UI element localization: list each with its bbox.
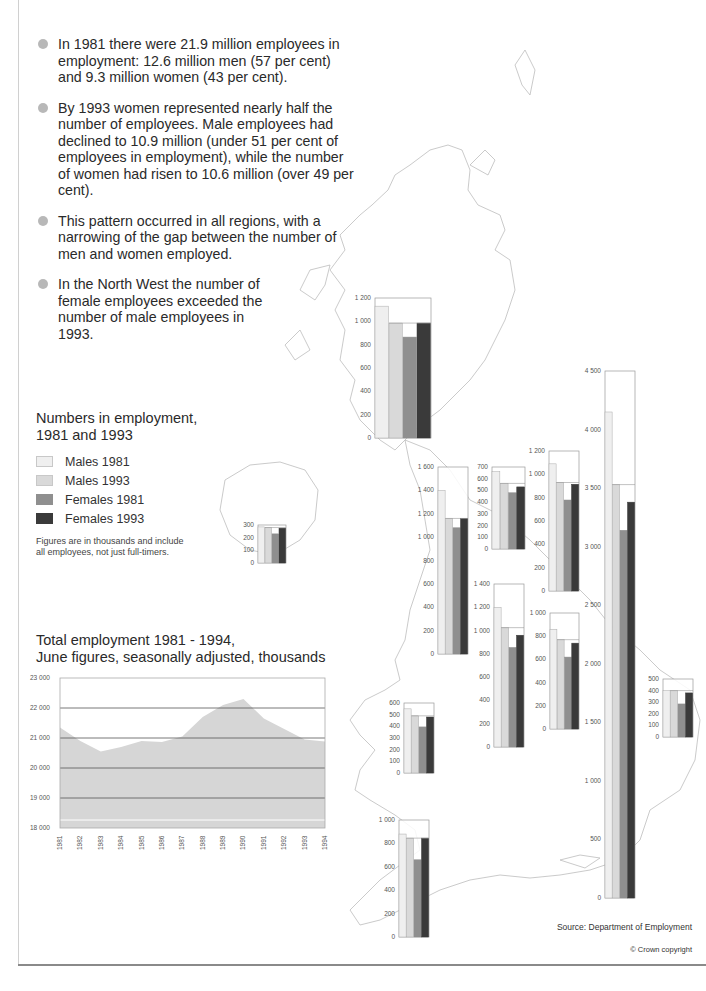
bar-females-1981 — [678, 704, 685, 737]
bar-males-1993 — [557, 640, 564, 729]
y-tick-label: 22 000 — [30, 704, 50, 711]
y-tick-label: 200 — [423, 627, 434, 634]
y-tick-label: 1 000 — [474, 627, 491, 634]
y-tick-label: 600 — [360, 364, 371, 371]
area-series — [60, 699, 325, 828]
y-tick-label: 400 — [423, 603, 434, 610]
y-tick-label: 500 — [590, 835, 601, 842]
y-tick-label: 1 000 — [379, 816, 396, 823]
bar-females-1981 — [509, 647, 516, 747]
y-tick-label: 19 000 — [30, 794, 50, 801]
y-tick-label: 1 000 — [530, 609, 547, 616]
legend-item-males-1981: Males 1981 — [36, 452, 256, 471]
bar-females-1981 — [453, 528, 460, 654]
y-tick-label: 0 — [250, 559, 254, 566]
y-tick-label: 3 500 — [585, 484, 602, 491]
x-tick-label: 1992 — [280, 835, 287, 850]
bar-males-1981 — [258, 527, 265, 563]
y-tick-label: 500 — [389, 711, 400, 718]
x-tick-label: 1991 — [260, 835, 267, 850]
y-tick-label: 600 — [477, 475, 488, 482]
y-tick-label: 0 — [391, 933, 395, 940]
bar-males-1981 — [549, 464, 556, 591]
region-bar-chart: 05001 0001 5002 0002 5003 0003 5004 0004… — [577, 366, 639, 903]
bar-males-1981 — [375, 306, 388, 438]
bar-males-1993 — [407, 838, 414, 937]
y-tick-label: 500 — [477, 486, 488, 493]
y-tick-label: 1 200 — [474, 603, 491, 610]
bar-males-1981 — [399, 834, 406, 937]
region-bar-chart: 02004006008001 0001 2001 400 — [466, 579, 528, 752]
source-note: Source: Department of Employment — [557, 922, 692, 932]
bottom-rule — [18, 964, 706, 966]
region-bar-chart: 02004006008001 0001 200 — [521, 446, 583, 596]
legend-note: Figures are in thousands and include all… — [36, 536, 186, 558]
bullet-text: In the North West the number of female e… — [58, 276, 262, 342]
y-tick-label: 300 — [243, 521, 254, 528]
y-tick-label: 400 — [534, 540, 545, 547]
bullet-item: In the North West the number of female e… — [38, 276, 273, 342]
y-tick-label: 1 400 — [418, 486, 435, 493]
y-tick-label: 0 — [541, 587, 545, 594]
bar-males-1981 — [404, 709, 411, 773]
y-tick-label: 800 — [360, 341, 371, 348]
y-tick-label: 20 000 — [30, 764, 50, 771]
bar-males-1981 — [550, 629, 557, 729]
bar-females-1981 — [414, 860, 421, 937]
bar-females-1981 — [564, 500, 571, 591]
y-tick-label: 600 — [384, 863, 395, 870]
y-tick-label: 200 — [535, 702, 546, 709]
x-tick-label: 1984 — [117, 835, 124, 850]
y-tick-label: 200 — [243, 534, 254, 541]
total-employment-area-chart: 18 00019 00020 00021 00022 00023 0001981… — [0, 670, 340, 870]
bar-males-1981 — [494, 607, 501, 747]
bar-females-1993 — [427, 717, 434, 773]
bar-females-1993 — [628, 502, 635, 898]
bar-males-1993 — [500, 483, 508, 549]
y-tick-label: 100 — [243, 546, 254, 553]
y-tick-label: 1 200 — [529, 447, 546, 454]
region-bar-chart: 0100200300400500 — [635, 674, 697, 742]
y-tick-label: 400 — [648, 687, 659, 694]
bar-females-1981 — [509, 493, 517, 549]
swatch-icon — [36, 475, 53, 486]
y-tick-label: 0 — [396, 769, 400, 776]
y-tick-label: 1 000 — [418, 533, 435, 540]
legend-label: Females 1981 — [65, 493, 144, 507]
y-tick-label: 0 — [542, 725, 546, 732]
legend-item-females-1981: Females 1981 — [36, 490, 256, 509]
bar-males-1981 — [438, 490, 445, 654]
y-tick-label: 200 — [479, 720, 490, 727]
legend-label: Males 1981 — [65, 455, 130, 469]
summary-bullets: In 1981 there were 21.9 million employee… — [38, 36, 358, 356]
bar-males-1993 — [671, 691, 678, 737]
y-tick-label: 600 — [389, 699, 400, 706]
bullet-dot-icon — [38, 103, 48, 113]
y-tick-label: 400 — [535, 679, 546, 686]
bullet-item: This pattern occurred in all regions, wi… — [38, 213, 358, 263]
bullet-item: By 1993 women represented nearly half th… — [38, 100, 358, 199]
x-tick-label: 1994 — [321, 835, 328, 850]
y-tick-label: 1 000 — [355, 317, 372, 324]
y-tick-label: 0 — [484, 545, 488, 552]
legend-title: Numbers in employment,1981 and 1993 — [36, 410, 256, 444]
y-tick-label: 400 — [384, 886, 395, 893]
y-tick-label: 0 — [367, 434, 371, 441]
y-tick-label: 400 — [360, 387, 371, 394]
y-tick-label: 800 — [534, 494, 545, 501]
y-tick-label: 1 000 — [529, 470, 546, 477]
y-tick-label: 600 — [423, 580, 434, 587]
y-tick-label: 800 — [479, 650, 490, 657]
legend-label: Males 1993 — [65, 474, 130, 488]
bar-females-1993 — [686, 693, 693, 737]
y-tick-label: 200 — [648, 710, 659, 717]
y-tick-label: 400 — [477, 498, 488, 505]
x-tick-label: 1989 — [219, 835, 226, 850]
bullet-dot-icon — [38, 39, 48, 49]
bar-females-1981 — [403, 337, 416, 438]
y-tick-label: 200 — [384, 910, 395, 917]
swatch-icon — [36, 456, 53, 467]
bar-males-1993 — [446, 518, 453, 654]
y-tick-label: 1 200 — [355, 294, 372, 301]
y-tick-label: 100 — [389, 757, 400, 764]
